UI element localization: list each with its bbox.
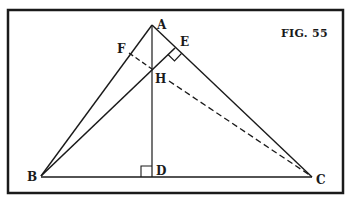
- label-e: E: [180, 35, 189, 49]
- label-d: D: [156, 164, 166, 178]
- side-ab: [41, 25, 152, 176]
- label-f: F: [117, 42, 126, 56]
- dashed-hc: [169, 81, 311, 176]
- right-angle-mark-d: [141, 166, 152, 177]
- figure-55: A B C D E F H FIG. 55: [0, 0, 349, 200]
- dashed-fh: [129, 53, 152, 69]
- label-b: B: [27, 170, 37, 184]
- side-ac: [152, 25, 312, 177]
- right-angle-mark-e: [168, 54, 182, 62]
- label-c: C: [316, 173, 326, 187]
- label-h: H: [155, 72, 166, 86]
- altitude-be: [41, 48, 175, 176]
- figure-caption: FIG. 55: [281, 27, 328, 40]
- label-a: A: [156, 18, 167, 32]
